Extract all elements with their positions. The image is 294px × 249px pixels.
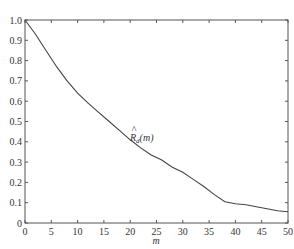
x-tick-label: 35 xyxy=(204,226,214,237)
axis-ticks xyxy=(25,20,288,223)
annotation-suffix: (m) xyxy=(140,132,155,144)
x-tick-label: 30 xyxy=(178,226,188,237)
x-tick-label: 15 xyxy=(99,226,109,237)
y-tick-label: 0.5 xyxy=(10,116,23,127)
y-tick-label: 0.6 xyxy=(10,96,23,107)
series-annotation: Rd(m) ^ xyxy=(129,124,154,145)
y-tick-label: 0 xyxy=(17,218,22,229)
x-tick-label: 0 xyxy=(23,226,28,237)
x-tick-label: 50 xyxy=(283,226,293,237)
x-tick-label: 10 xyxy=(73,226,83,237)
plot-frame xyxy=(25,20,288,223)
y-tick-label: 0.4 xyxy=(10,136,23,147)
x-tick-label: 40 xyxy=(230,226,240,237)
y-tick-label: 0.3 xyxy=(10,157,23,168)
y-tick-label: 0.9 xyxy=(10,35,23,46)
y-tick-label: 0.7 xyxy=(10,75,23,86)
line-chart: 05101520253035404550 00.10.20.30.40.50.6… xyxy=(0,0,294,249)
x-tick-label: 5 xyxy=(49,226,54,237)
x-tick-label: 20 xyxy=(125,226,135,237)
y-tick-labels: 00.10.20.30.40.50.60.70.80.91.0 xyxy=(10,15,23,229)
y-tick-label: 0.1 xyxy=(10,197,23,208)
series-line xyxy=(25,20,288,212)
y-tick-label: 1.0 xyxy=(10,15,23,26)
x-tick-label: 45 xyxy=(257,226,267,237)
x-axis-label: m xyxy=(152,235,159,246)
y-tick-label: 0.2 xyxy=(10,177,23,188)
y-tick-label: 0.8 xyxy=(10,55,23,66)
